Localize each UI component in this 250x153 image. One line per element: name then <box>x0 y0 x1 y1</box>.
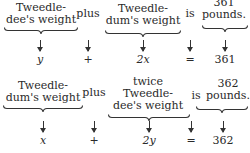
arrow-down-icon <box>94 121 95 132</box>
symbol-2y: 2y <box>137 135 161 147</box>
phrase-twice-tweedledee-weight: twice Tweedle- dee's weight <box>110 76 186 112</box>
symbol-361: 361 <box>213 54 237 66</box>
phrase-361-pounds: 361 pounds. <box>200 0 248 21</box>
phrase-line: dee's weight <box>110 100 186 112</box>
arrow-down-icon <box>40 40 41 51</box>
phrase-line: dum's weight <box>4 92 82 104</box>
underbrace-1 <box>3 105 83 113</box>
phrase-line: pounds. <box>204 90 250 102</box>
underbrace-1 <box>4 27 78 35</box>
symbol-equals: = <box>180 54 200 66</box>
symbol-362: 362 <box>211 135 235 147</box>
underbrace-5 <box>202 25 248 33</box>
symbol-plus: + <box>78 54 98 66</box>
word-is: is <box>189 90 203 102</box>
arrow-down-icon <box>43 121 44 132</box>
phrase-tweedledum-weight: Tweedle- dum's weight <box>4 80 82 104</box>
phrase-line: dum's weight <box>103 15 183 27</box>
symbol-2x: 2x <box>131 54 155 66</box>
arrow-down-icon <box>149 121 150 132</box>
symbol-plus: + <box>84 135 104 147</box>
underbrace-3 <box>105 30 181 38</box>
phrase-line: dee's weight <box>5 14 77 26</box>
underbrace-5 <box>196 106 248 114</box>
arrow-down-icon <box>223 121 224 132</box>
arrow-down-icon <box>190 40 191 51</box>
word-is: is <box>183 8 197 20</box>
symbol-y: y <box>30 54 50 66</box>
word-plus: plus <box>76 8 100 20</box>
symbol-equals: = <box>181 135 201 147</box>
arrow-down-icon <box>191 121 192 132</box>
word-plus: plus <box>82 87 106 99</box>
arrow-down-icon <box>225 40 226 51</box>
phrase-twice-tweedledum-weight: twice Tweedle- dum's weight <box>103 0 183 27</box>
phrase-362-pounds: 362 pounds. <box>204 78 250 102</box>
phrase-tweedledee-weight: Tweedle- dee's weight <box>5 2 77 26</box>
arrow-down-icon <box>88 40 89 51</box>
phrase-line: pounds. <box>200 9 248 21</box>
arrow-down-icon <box>143 40 144 51</box>
symbol-x: x <box>33 135 53 147</box>
